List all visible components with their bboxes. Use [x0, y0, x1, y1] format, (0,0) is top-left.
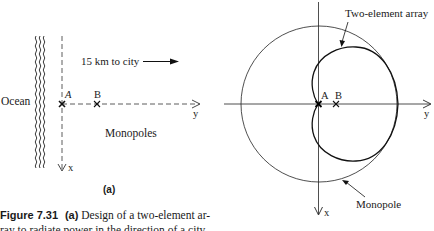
panel-b-pattern: y x A B Two-element array Monopole	[224, 2, 431, 218]
panel-a-label: (a)	[103, 184, 115, 195]
monopole-label: Monopole	[356, 198, 401, 210]
two-element-array-label: Two-element array	[345, 7, 429, 19]
pattern-element-b-label: B	[335, 90, 342, 101]
monopoles-label: Monopoles	[105, 127, 157, 140]
pattern-element-a-label: A	[321, 90, 329, 101]
city-direction-label: 15 km to city	[81, 55, 140, 67]
caption-line-1: Figure 7.31 (a) Design of a two-element …	[0, 208, 224, 223]
figure-7-31: Ocean x y A B 15 km to city Monopoles (a…	[0, 0, 434, 231]
panel-a-diagram: Ocean x y A B 15 km to city Monopoles (a…	[1, 36, 200, 195]
ocean-label: Ocean	[1, 95, 31, 107]
monopole-callout-arrowhead-icon	[342, 180, 349, 185]
array-callout-line	[342, 22, 348, 42]
city-arrowhead-icon	[170, 59, 179, 65]
pattern-x-label: x	[324, 207, 330, 218]
y-axis-label: y	[193, 108, 199, 119]
pattern-y-label: y	[424, 108, 430, 119]
figure-caption: Figure 7.31 (a) Design of a two-element …	[0, 208, 224, 231]
caption-text-1: Design of a two-element ar-	[81, 209, 210, 221]
element-a-label: A	[64, 89, 72, 100]
caption-line-2: ray to radiate power in the direction of…	[0, 223, 224, 231]
array-callout-arrowhead-icon	[340, 40, 346, 47]
x-axis-label: x	[68, 162, 74, 173]
caption-part-label: (a)	[65, 209, 78, 221]
ocean-waves-icon	[35, 36, 45, 168]
monopole-callout-line	[346, 182, 365, 197]
figure-number: Figure 7.31	[0, 209, 58, 221]
element-b-label: B	[94, 89, 101, 100]
